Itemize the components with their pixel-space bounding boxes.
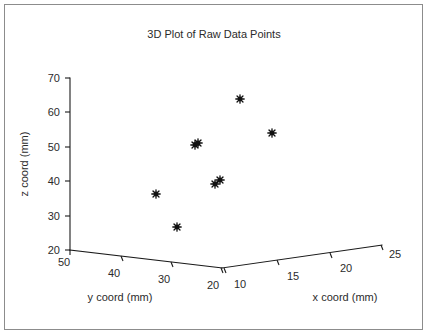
data-point-marker — [236, 95, 244, 103]
z-axis-group: 70 60 50 40 30 20 z coord (mm) — [18, 72, 70, 256]
data-point-layer — [152, 95, 276, 231]
y-tick-label: 20 — [207, 279, 219, 291]
x-axis-group: 10 15 20 25 x coord (mm) — [222, 245, 401, 303]
x-tick-mark — [224, 268, 226, 273]
y-tick-label: 50 — [58, 256, 70, 268]
y-axis-title: y coord (mm) — [88, 291, 153, 303]
z-tick-label: 20 — [48, 244, 60, 256]
z-tick-label: 50 — [48, 141, 60, 153]
x-tick-label: 10 — [234, 278, 246, 290]
z-tick-label: 40 — [48, 175, 60, 187]
figure-canvas: 3D Plot of Raw Data Points 70 60 50 40 3… — [0, 0, 429, 336]
y-tick-label: 40 — [108, 267, 120, 279]
data-point-marker — [173, 223, 181, 231]
y-axis-line — [70, 250, 222, 268]
plot-title: 3D Plot of Raw Data Points — [147, 28, 281, 40]
y-tick-label: 30 — [158, 273, 170, 285]
scatter-plot-3d: 3D Plot of Raw Data Points 70 60 50 40 3… — [0, 0, 429, 336]
x-tick-label: 25 — [389, 248, 401, 260]
z-axis-title: z coord (mm) — [18, 132, 30, 197]
x-tick-label: 15 — [287, 270, 299, 282]
data-point-marker — [194, 139, 202, 147]
y-tick-mark — [171, 262, 173, 267]
z-tick-label: 60 — [48, 106, 60, 118]
z-tick-label: 70 — [48, 72, 60, 84]
data-point-marker — [211, 180, 219, 188]
y-tick-mark — [221, 268, 223, 273]
data-point-marker — [152, 190, 160, 198]
x-tick-mark — [330, 253, 332, 258]
x-tick-label: 20 — [340, 262, 352, 274]
x-tick-mark — [277, 260, 279, 265]
data-point-marker — [268, 129, 276, 137]
x-axis-title: x coord (mm) — [313, 291, 378, 303]
x-tick-mark — [381, 245, 383, 250]
y-axis-group: 50 40 30 20 y coord (mm) — [58, 250, 223, 303]
z-tick-label: 30 — [48, 210, 60, 222]
x-axis-line — [222, 245, 382, 268]
